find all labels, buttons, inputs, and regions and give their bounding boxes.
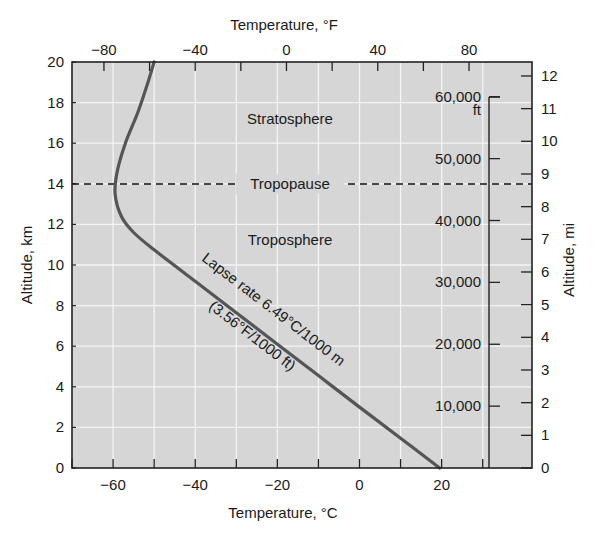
km-tick-label: 14 bbox=[47, 175, 64, 192]
km-tick-label: 4 bbox=[56, 378, 64, 395]
mi-tick-label: 11 bbox=[541, 100, 557, 117]
km-tick-labels: 02468101214161820 bbox=[47, 53, 64, 476]
mi-tick-label: 5 bbox=[541, 296, 549, 313]
ft-unit-label: ft bbox=[473, 101, 482, 118]
km-tick-label: 18 bbox=[47, 94, 64, 111]
top-axis-title: Temperature, °F bbox=[230, 16, 338, 33]
left-axis-title: Altitude, km bbox=[18, 226, 35, 304]
km-tick-label: 12 bbox=[47, 215, 64, 232]
km-tick-label: 20 bbox=[47, 53, 64, 70]
mi-tick-label: 6 bbox=[541, 263, 549, 280]
celsius-tick-label: −20 bbox=[265, 476, 290, 493]
mi-tick-labels: 0123456789101112 bbox=[541, 67, 558, 476]
fahrenheit-tick-label: −80 bbox=[91, 41, 116, 58]
celsius-tick-labels: −60−40−20020 bbox=[100, 476, 450, 493]
celsius-tick-label: −60 bbox=[100, 476, 125, 493]
mi-tick-label: 7 bbox=[541, 230, 549, 247]
fahrenheit-tick-label: 80 bbox=[461, 41, 478, 58]
km-tick-label: 16 bbox=[47, 134, 64, 151]
mi-tick-label: 9 bbox=[541, 165, 549, 182]
mi-tick-label: 8 bbox=[541, 198, 549, 215]
km-tick-label: 6 bbox=[56, 337, 64, 354]
fahrenheit-tick-label: 0 bbox=[282, 41, 290, 58]
km-tick-label: 2 bbox=[56, 418, 64, 435]
km-tick-label: 10 bbox=[47, 256, 64, 273]
tropopause-label: Tropopause bbox=[250, 175, 330, 192]
bottom-axis-title: Temperature, °C bbox=[228, 504, 338, 521]
mi-tick-label: 10 bbox=[541, 132, 558, 149]
mi-tick-label: 12 bbox=[541, 67, 558, 84]
fahrenheit-tick-labels: −80−4004080 bbox=[91, 41, 477, 58]
fahrenheit-tick-label: −40 bbox=[182, 41, 207, 58]
km-tick-label: 0 bbox=[56, 459, 64, 476]
ft-tick-label: 40,000 bbox=[435, 212, 481, 229]
mi-tick-label: 0 bbox=[541, 459, 549, 476]
fahrenheit-tick-label: 40 bbox=[369, 41, 386, 58]
ft-tick-label: 50,000 bbox=[435, 150, 481, 167]
stratosphere-label: Stratosphere bbox=[247, 110, 333, 127]
celsius-tick-label: 20 bbox=[433, 476, 450, 493]
troposphere-label: Troposphere bbox=[248, 231, 333, 248]
km-tick-label: 8 bbox=[56, 297, 64, 314]
right-axis-title: Altitude, mi bbox=[560, 223, 577, 297]
mi-tick-label: 1 bbox=[541, 426, 549, 443]
celsius-tick-label: −40 bbox=[182, 476, 207, 493]
ft-tick-label: 30,000 bbox=[435, 273, 481, 290]
celsius-tick-label: 0 bbox=[355, 476, 363, 493]
mi-tick-label: 2 bbox=[541, 394, 549, 411]
ft-tick-label: 20,000 bbox=[435, 335, 481, 352]
mi-tick-label: 3 bbox=[541, 361, 549, 378]
ft-tick-label: 10,000 bbox=[435, 397, 481, 414]
mi-tick-label: 4 bbox=[541, 328, 549, 345]
atmosphere-temperature-chart: Temperature, °F Temperature, °C Altitude… bbox=[0, 0, 602, 541]
